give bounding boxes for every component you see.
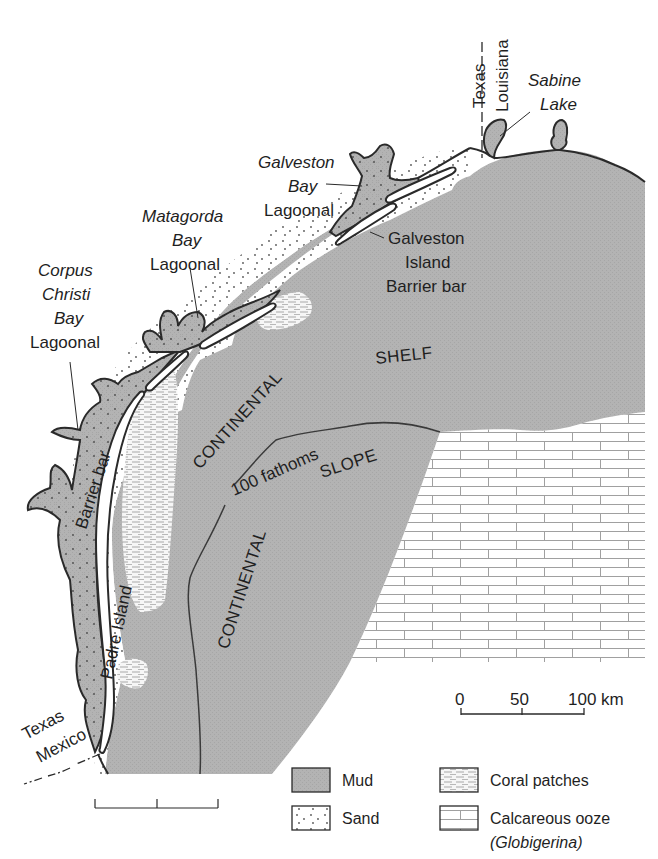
label-matagorda-2: Bay	[172, 231, 203, 250]
label-sabine-lake-1: Sabine	[528, 71, 581, 90]
svg-text:(Globigerina): (Globigerina)	[490, 834, 582, 851]
galveston-bay-leader	[326, 184, 362, 186]
label-galveston-island-1: Galveston	[388, 229, 465, 248]
corpus-christi-leader	[70, 362, 78, 430]
east-lake	[551, 120, 567, 150]
svg-text:Coral patches: Coral patches	[490, 772, 589, 789]
svg-text:Sand: Sand	[342, 810, 379, 827]
label-corpus-4: Lagoonal	[30, 333, 100, 352]
label-galveston-bay-3: Lagoonal	[264, 201, 334, 220]
scale-marks-lower	[95, 799, 218, 808]
legend-item-coral: Coral patches	[440, 768, 589, 792]
label-corpus-1: Corpus	[38, 261, 93, 280]
sabine-lake	[484, 119, 506, 158]
legend-item-mud: Mud	[292, 768, 373, 792]
texas-mexico-border	[24, 754, 100, 784]
label-galveston-bay-1: Galveston	[258, 153, 335, 172]
label-galveston-island-3: Barrier bar	[386, 277, 467, 296]
scale-tick-0: 0	[455, 690, 464, 709]
label-texas-top: Texas	[470, 64, 489, 108]
label-corpus-3: Bay	[54, 309, 85, 328]
legend-item-sand: Sand	[292, 806, 379, 830]
label-galveston-island-2: Island	[405, 253, 450, 272]
sediment-map: Texas Louisiana Sabine Lake Galveston Ba…	[0, 0, 658, 859]
label-sabine-lake-2: Lake	[540, 95, 577, 114]
legend-item-ooze: Calcareous ooze (Globigerina)	[440, 806, 610, 851]
label-louisiana: Louisiana	[493, 39, 512, 112]
svg-text:Mud: Mud	[342, 772, 373, 789]
scale-tick-100: 100 km	[568, 690, 624, 709]
label-corpus-2: Christi	[42, 285, 91, 304]
label-matagorda-3: Lagoonal	[150, 255, 220, 274]
scale-bar: 0 50 100 km	[455, 690, 624, 715]
label-galveston-bay-2: Bay	[288, 177, 319, 196]
svg-text:Calcareous ooze: Calcareous ooze	[490, 810, 610, 827]
scale-tick-50: 50	[510, 690, 529, 709]
label-matagorda-1: Matagorda	[142, 207, 223, 226]
legend: Mud Sand Coral patches Calcareous ooze (…	[292, 768, 610, 851]
